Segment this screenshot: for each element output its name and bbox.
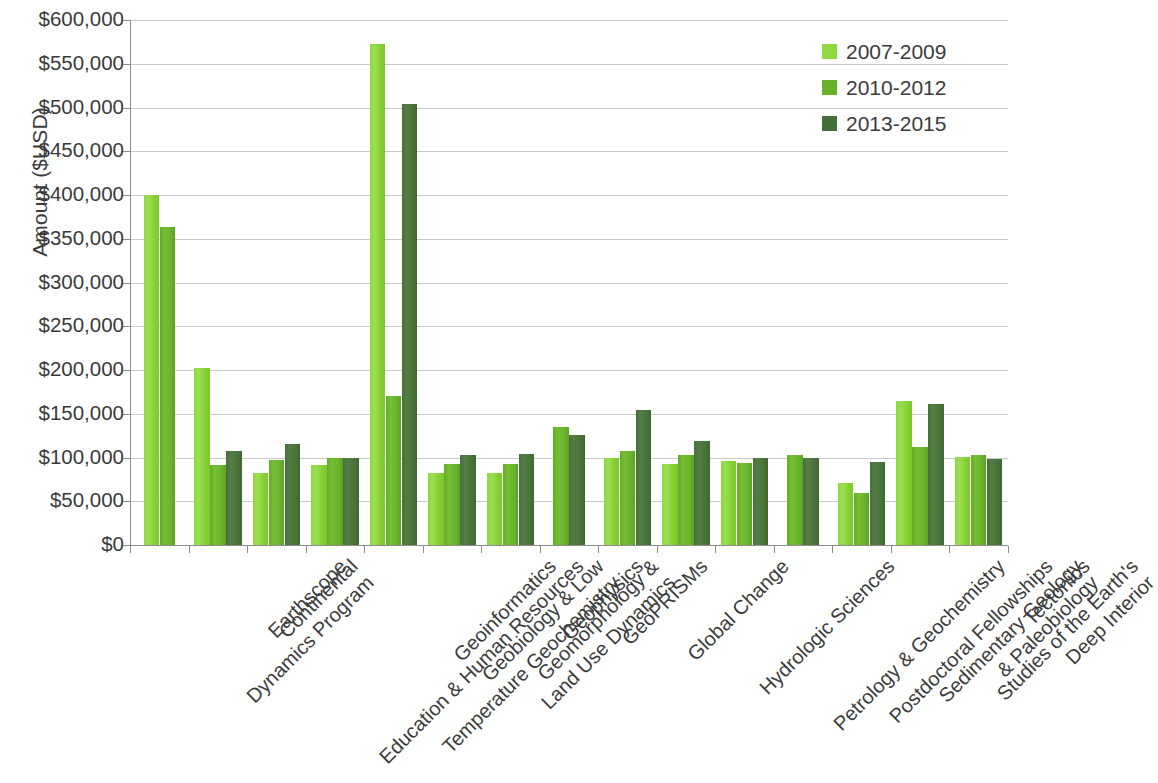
legend-label: 2007-2009 <box>846 41 946 62</box>
legend-item: 2013-2015 <box>822 105 946 141</box>
legend: 2007-20092010-20122013-2015 <box>822 33 946 141</box>
legend-swatch-icon <box>822 80 837 95</box>
legend-swatch-icon <box>822 44 837 59</box>
legend-label: 2013-2015 <box>846 113 946 134</box>
legend-item: 2007-2009 <box>822 33 946 69</box>
x-axis-tick-label: ContinentalDynamics Program <box>225 555 378 708</box>
legend-swatch-icon <box>822 116 837 131</box>
legend-item: 2010-2012 <box>822 69 946 105</box>
legend-label: 2010-2012 <box>846 77 946 98</box>
